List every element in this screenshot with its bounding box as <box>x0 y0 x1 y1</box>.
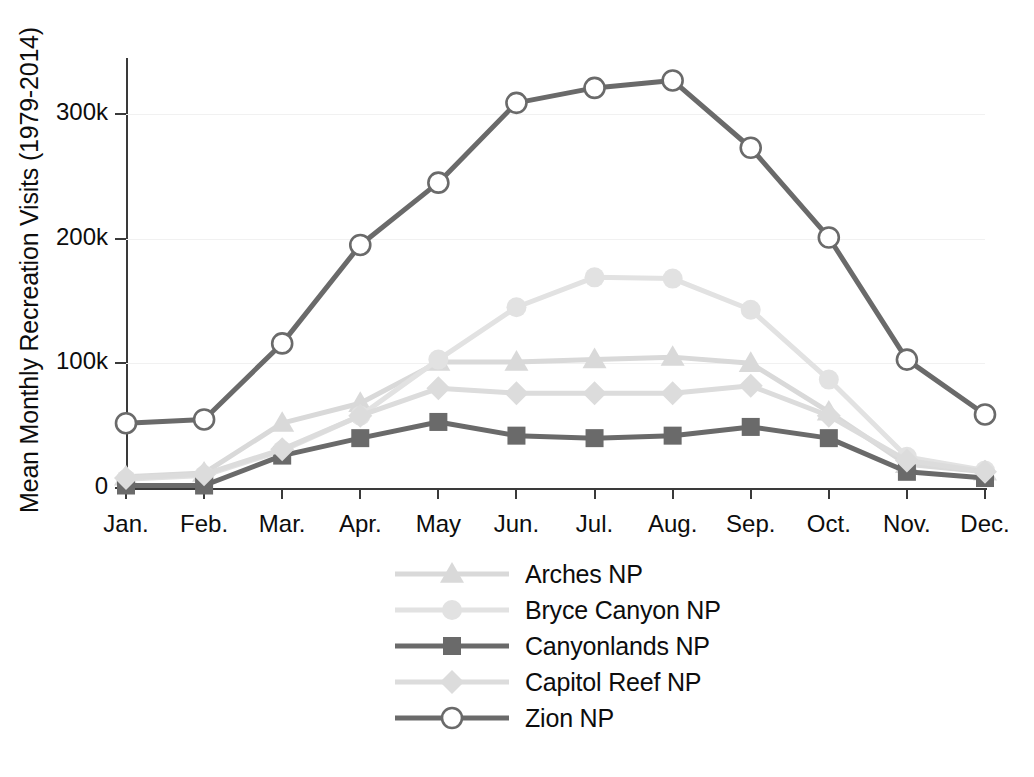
data-point-marker <box>426 376 450 400</box>
data-point-marker <box>975 404 995 424</box>
data-point-marker <box>742 418 760 436</box>
legend-label: Bryce Canyon NP <box>511 596 721 625</box>
x-axis-tick <box>515 488 517 499</box>
legend-label: Capitol Reef NP <box>511 668 701 697</box>
x-axis-tick-label: Nov. <box>862 510 952 538</box>
data-point-marker <box>272 333 292 353</box>
x-axis-tick-label: Aug. <box>628 510 718 538</box>
data-point-marker <box>739 374 763 398</box>
y-axis-tick <box>115 113 126 115</box>
x-axis-tick <box>906 488 908 499</box>
legend-marker-circle-icon <box>393 595 511 625</box>
data-point-marker <box>741 300 761 320</box>
x-axis-tick-label: Jul. <box>550 510 640 538</box>
legend-marker-triangle-icon <box>393 559 511 589</box>
data-point-marker <box>351 429 369 447</box>
data-point-marker <box>897 350 917 370</box>
x-axis-tick-label: Feb. <box>159 510 249 538</box>
x-axis-tick-label: Oct. <box>784 510 874 538</box>
data-point-marker <box>507 427 525 445</box>
legend-marker-diamond-icon <box>393 667 511 697</box>
x-axis-tick-label: Sep. <box>706 510 796 538</box>
data-point-marker <box>428 350 448 370</box>
data-point-marker <box>429 413 447 431</box>
data-point-marker <box>586 429 604 447</box>
series-capitol-reef-np <box>114 374 997 490</box>
data-point-marker <box>194 409 214 429</box>
data-point-marker <box>661 381 685 405</box>
legend-marker-square-icon <box>393 631 511 661</box>
data-point-marker <box>585 267 605 287</box>
x-axis-tick-label: Apr. <box>315 510 405 538</box>
series-canyonlands-np <box>117 413 994 495</box>
data-point-marker <box>820 429 838 447</box>
plot-area: Jan.Feb.Mar.Apr.MayJun.Jul.Aug.Sep.Oct.N… <box>126 58 985 488</box>
x-axis-line <box>126 488 987 490</box>
legend-label: Canyonlands NP <box>511 632 710 661</box>
x-axis-tick <box>594 488 596 499</box>
y-axis-tick <box>115 238 126 240</box>
x-axis-tick-label: May <box>393 510 483 538</box>
data-point-marker <box>819 370 839 390</box>
legend-label: Zion NP <box>511 704 614 733</box>
series-zion-np <box>116 70 995 433</box>
chart-root: Mean Monthly Recreation Visits (1979-201… <box>0 0 1034 777</box>
chart-legend: Arches NP Bryce Canyon NP Canyonlands NP… <box>393 556 953 736</box>
data-point-marker <box>741 138 761 158</box>
x-axis-tick-label: Dec. <box>940 510 1030 538</box>
data-point-marker <box>663 269 683 289</box>
data-point-marker <box>664 427 682 445</box>
data-point-marker <box>506 93 526 113</box>
data-point-marker <box>506 297 526 317</box>
data-point-marker <box>504 381 528 405</box>
x-axis-tick <box>750 488 752 499</box>
series-layer <box>126 58 985 488</box>
y-axis-tick-label: 100k <box>16 347 108 375</box>
legend-item-capitol-reef[interactable]: Capitol Reef NP <box>393 664 953 700</box>
x-axis-tick <box>359 488 361 499</box>
x-axis-tick <box>984 488 986 499</box>
x-axis-tick <box>281 488 283 499</box>
series-line <box>126 80 985 423</box>
data-point-marker <box>116 413 136 433</box>
x-axis-tick <box>828 488 830 499</box>
data-point-marker <box>583 381 607 405</box>
x-axis-tick <box>437 488 439 499</box>
legend-label: Arches NP <box>511 560 643 589</box>
data-point-marker <box>819 227 839 247</box>
y-axis-tick-label: 0 <box>16 472 108 500</box>
y-axis-tick-label: 300k <box>16 98 108 126</box>
legend-marker-open-circle-icon <box>393 703 511 733</box>
legend-item-bryce-canyon[interactable]: Bryce Canyon NP <box>393 592 953 628</box>
legend-item-zion[interactable]: Zion NP <box>393 700 953 736</box>
x-axis-tick <box>672 488 674 499</box>
y-axis-title: Mean Monthly Recreation Visits (1979-201… <box>6 10 52 530</box>
data-point-marker <box>350 235 370 255</box>
x-axis-tick-label: Jun. <box>471 510 561 538</box>
x-axis-tick-label: Mar. <box>237 510 327 538</box>
data-point-marker <box>428 173 448 193</box>
y-axis-tick <box>115 362 126 364</box>
legend-item-arches[interactable]: Arches NP <box>393 556 953 592</box>
data-point-marker <box>585 78 605 98</box>
x-axis-tick-label: Jan. <box>81 510 171 538</box>
legend-item-canyonlands[interactable]: Canyonlands NP <box>393 628 953 664</box>
y-axis-tick-label: 200k <box>16 223 108 251</box>
data-point-marker <box>663 70 683 90</box>
